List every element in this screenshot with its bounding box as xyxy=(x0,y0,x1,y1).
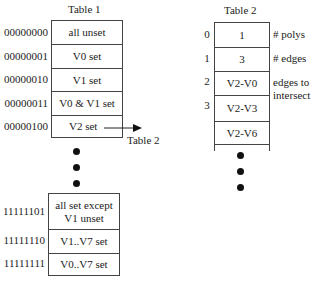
table1-cell-0: all unset xyxy=(52,21,122,44)
table2-cell-1: 3 xyxy=(215,47,269,71)
table1-cell-2: V1 set xyxy=(52,68,122,91)
table2-cell-4: V2-V6 xyxy=(215,121,269,144)
table2-index-1: 1 xyxy=(202,52,212,64)
pointer-label: Table 2 xyxy=(127,134,160,146)
table1-cell-3: V0 & V1 set xyxy=(52,91,122,115)
table1-code-4: 00000100 xyxy=(0,120,48,132)
table1-code-1: 00000001 xyxy=(0,50,48,62)
table1-code-0: 00000000 xyxy=(0,26,48,38)
table2-index-2: 2 xyxy=(202,75,212,87)
table2-index-3: 3 xyxy=(202,99,212,111)
table2-title: Table 2 xyxy=(224,4,257,16)
ellipsis-dot-icon xyxy=(73,164,80,171)
table1-tail-code-2: 11111111 xyxy=(0,257,45,269)
table2-index-0: 0 xyxy=(202,28,212,40)
table2-cell-3: V2-V3 xyxy=(215,95,269,121)
table1-code-3: 00000011 xyxy=(0,97,48,109)
table1-tail-cell-2: V0..V7 set xyxy=(49,253,119,275)
table1-box: all unset V0 set V1 set V0 & V1 set V2 s… xyxy=(51,20,123,138)
table1-tail-cell-0: all set except V1 unset xyxy=(49,194,119,229)
ellipsis-dot-icon xyxy=(237,168,244,175)
table1-cell-1: V0 set xyxy=(52,44,122,68)
table1-tail-code-1: 11111110 xyxy=(0,234,45,246)
table1-tail-code-0: 11111101 xyxy=(0,205,45,217)
table2-cell-2: V2-V0 xyxy=(215,71,269,95)
ellipsis-dot-icon xyxy=(237,152,244,159)
table1-code-2: 00000010 xyxy=(0,73,48,85)
annotation-edges: # edges xyxy=(273,52,306,65)
ellipsis-dot-icon xyxy=(73,148,80,155)
annotation-edges-to-intersect: edges to intersect xyxy=(273,76,316,102)
pointer-arrow-icon xyxy=(100,122,146,134)
table1-title: Table 1 xyxy=(68,3,101,15)
annotation-polys: # polys xyxy=(273,28,305,41)
table2-open-row xyxy=(215,144,269,152)
table2-cell-0: 1 xyxy=(215,23,269,47)
ellipsis-dot-icon xyxy=(237,184,244,191)
table1-tail-box: all set except V1 unset V1..V7 set V0..V… xyxy=(48,193,120,276)
table2-box: 1 3 V2-V0 V2-V3 V2-V6 xyxy=(214,22,270,151)
table1-cell-4-label: V2 set xyxy=(69,120,97,133)
table1-tail-cell-1: V1..V7 set xyxy=(49,229,119,253)
ellipsis-dot-icon xyxy=(73,180,80,187)
